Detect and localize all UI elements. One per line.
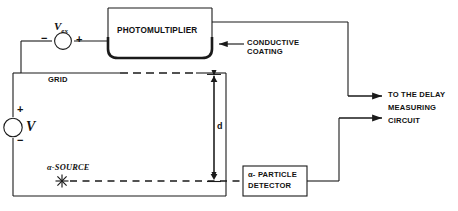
alpha-source-starburst: [56, 175, 69, 188]
grid-label: GRID: [48, 76, 68, 85]
conductive-coating-path: [108, 37, 212, 58]
vex-minus-terminal: −: [41, 32, 47, 44]
dimension-d-label: d: [217, 121, 223, 132]
output-label-line3: CIRCUIT: [388, 117, 420, 126]
vex-sub: ex: [61, 27, 68, 35]
alpha-detector-label-line1: α- PARTICLE: [248, 171, 297, 180]
alpha-source-label: α-SOURCE: [47, 163, 90, 173]
bias-plus-terminal: +: [17, 103, 23, 115]
conductive-coating-label-line2: COATING: [247, 48, 283, 57]
bias-source-label: V: [26, 119, 35, 135]
vex-plus-terminal: +: [76, 33, 82, 45]
bias-minus-terminal: −: [17, 134, 23, 146]
circuit-diagram: PHOTOMULTIPLIER Vex − + GRID V + − CONDU…: [0, 0, 458, 211]
excitation-source-label: Vex: [54, 20, 68, 35]
output-label-line2: MEASURING: [388, 104, 436, 113]
photomultiplier-label: PHOTOMULTIPLIER: [117, 26, 197, 36]
bottom-return-line: [13, 73, 226, 196]
output-label-line1: TO THE DELAY: [388, 91, 445, 100]
alpha-detector-label-line2: DETECTOR: [248, 182, 291, 191]
pmt-output-wire: [212, 22, 382, 96]
detector-output-wire: [307, 118, 382, 181]
